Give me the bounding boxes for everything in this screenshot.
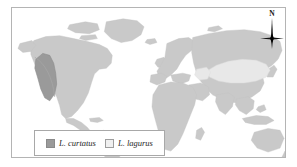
map-legend: L. curtatus L. lagurus [34, 130, 165, 156]
legend-swatch-lagurus-icon [105, 139, 114, 148]
legend-entry-lagurus[interactable]: L. lagurus [105, 138, 153, 148]
legend-swatch-curtatus-icon [46, 139, 55, 148]
distribution-map-figure: L. curtatus L. lagurus N [0, 0, 297, 167]
map-frame: L. curtatus L. lagurus [11, 7, 286, 158]
legend-label-curtatus: L. curtatus [59, 138, 96, 148]
legend-label-lagurus: L. lagurus [118, 138, 153, 148]
legend-entry-curtatus[interactable]: L. curtatus [46, 138, 96, 148]
